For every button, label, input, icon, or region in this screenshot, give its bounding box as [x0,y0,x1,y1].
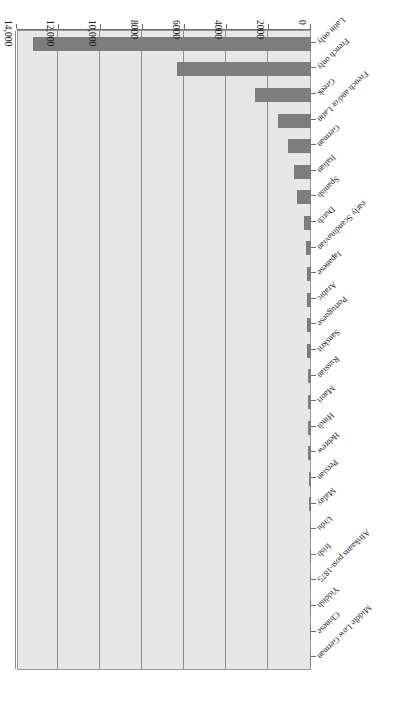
bar [288,139,311,153]
x-axis-tick [143,24,144,29]
x-axis-tick-label: 12,000 [45,20,55,46]
category-tick [311,67,316,68]
category-tick [311,349,316,350]
x-axis-tick [59,24,60,29]
bar [297,190,311,204]
category-tick [311,195,316,196]
bar-row [17,644,311,670]
x-axis-tick [185,24,186,29]
bar [309,497,311,511]
bar-row [17,363,311,389]
bar-row [17,414,311,440]
x-axis-tick-label: 6000 [171,20,181,39]
x-axis-tick [227,24,228,29]
bar-row [17,133,311,159]
bar-row [17,465,311,491]
bar-row [17,158,311,184]
bar-row [17,491,311,517]
bar-row [17,107,311,133]
bar [310,523,311,537]
bar-row [17,184,311,210]
bar [310,549,311,563]
bar [278,114,311,128]
category-tick [311,221,316,222]
bar [307,267,311,281]
category-tick [311,503,316,504]
bars-container [17,30,311,670]
bar [294,165,311,179]
category-tick [311,451,316,452]
bar [307,293,311,307]
x-axis-tick-label: 0 [297,20,307,25]
x-axis-tick-label: 8000 [129,20,139,39]
bar [309,472,311,486]
category-tick [311,272,316,273]
bar [308,395,311,409]
bar [306,242,311,256]
category-tick [311,298,316,299]
bar [307,344,311,358]
bar [307,318,311,332]
category-tick [311,426,316,427]
bar-row [17,81,311,107]
category-tick [311,656,316,657]
category-tick [311,247,316,248]
bar-row [17,312,311,338]
bar-row [17,568,311,594]
category-tick [311,119,316,120]
category-tick [311,605,316,606]
bar [304,216,311,230]
category-tick [311,144,316,145]
bar [308,369,311,383]
bar-chart-figure: 0200040006000800010,00012,00014,000 Lati… [0,0,398,716]
x-axis-tick [101,24,102,29]
bar [308,421,311,435]
category-tick [311,631,316,632]
bar-row [17,388,311,414]
bar-row [17,516,311,542]
x-axis-tick-label: 2000 [255,20,265,39]
category-tick [311,323,316,324]
bar [177,62,311,76]
x-axis-tick [269,24,270,29]
x-axis-tick-label: 10,000 [87,20,97,46]
category-tick [311,375,316,376]
category-tick [311,554,316,555]
bar-row [17,337,311,363]
bar-row [17,542,311,568]
x-axis: 0200040006000800010,00012,00014,000 [17,25,311,30]
bar [255,88,311,102]
category-tick [311,93,316,94]
bar [310,651,311,665]
category-tick [311,528,316,529]
category-tick [311,477,316,478]
bar [310,574,311,588]
category-tick [311,170,316,171]
bar-row [17,619,311,645]
category-tick [311,42,316,43]
x-axis-tick-label: 4000 [213,20,223,39]
bar [310,625,311,639]
bar-row [17,440,311,466]
bar-row [17,235,311,261]
x-axis-tick [17,24,18,29]
x-axis-tick-label: 14,000 [3,20,13,46]
bar-row [17,593,311,619]
bar-row [17,261,311,287]
bar-row [17,209,311,235]
bar-row [17,286,311,312]
category-tick [311,400,316,401]
bar-row [17,30,311,56]
bar [310,600,311,614]
bar [308,446,311,460]
category-tick [311,579,316,580]
x-axis-tick [311,24,312,29]
bar-row [17,56,311,82]
